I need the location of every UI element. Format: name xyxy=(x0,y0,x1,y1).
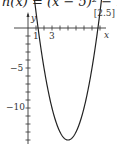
x-axis-label: x xyxy=(104,30,109,40)
parabola-graph: y x 1 3 −5 −10 xyxy=(0,0,117,144)
y-axis-arrow-icon xyxy=(27,12,30,17)
parabola-curve xyxy=(23,0,111,140)
y-tick-label-neg10: −10 xyxy=(6,102,25,112)
x-tick-label-3: 3 xyxy=(49,31,55,41)
y-tick-label-neg5: −5 xyxy=(10,63,24,73)
x-tick-label-1: 1 xyxy=(33,31,39,41)
